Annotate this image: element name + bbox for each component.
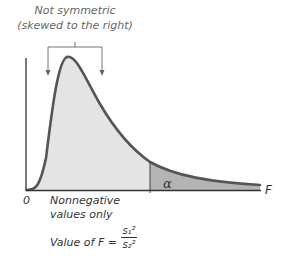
formula-prefix: Value of F = (50, 236, 117, 249)
f-distribution-graphic (0, 0, 288, 270)
annotation-line-1: Not symmetric (0, 3, 150, 18)
nonnegative-note: Nonnegative values only (50, 194, 120, 222)
formula-fraction: s₁² s₂² (121, 225, 137, 250)
f-distribution-diagram: Not symmetric (skewed to the right) 0 No… (0, 0, 288, 270)
nonnegative-line-1: Nonnegative (50, 194, 120, 208)
nonnegative-line-2: values only (50, 208, 120, 222)
fraction-bar (121, 237, 137, 238)
formula-denominator: s₂² (122, 239, 135, 250)
annotation-line-2: (skewed to the right) (0, 18, 150, 33)
formula-numerator: s₁² (122, 225, 135, 236)
skew-annotation: Not symmetric (skewed to the right) (0, 3, 150, 33)
origin-label: 0 (23, 194, 30, 207)
x-axis-label: F (265, 183, 272, 197)
alpha-label: α (163, 176, 172, 191)
body-region (27, 57, 150, 190)
